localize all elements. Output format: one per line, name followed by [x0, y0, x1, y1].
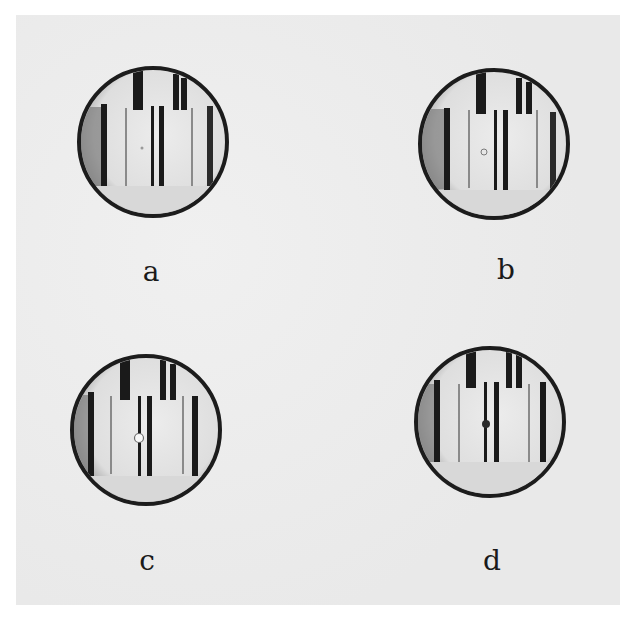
panel-label-d: d — [483, 547, 501, 575]
eyepiece-view-icon — [410, 342, 570, 502]
panel-label-a: a — [143, 258, 160, 286]
panel-c — [66, 350, 226, 510]
center-mark — [482, 420, 490, 428]
eyepiece-view-icon — [414, 64, 574, 224]
panel-d — [410, 342, 570, 502]
center-mark — [141, 147, 144, 150]
panel-label-c: c — [139, 547, 155, 575]
eyepiece-view-icon — [66, 350, 226, 510]
center-mark — [135, 434, 144, 443]
panel-a — [73, 62, 233, 222]
panel-b — [414, 64, 574, 224]
panel-label-b: b — [497, 256, 515, 284]
eyepiece-view-icon — [73, 62, 233, 222]
